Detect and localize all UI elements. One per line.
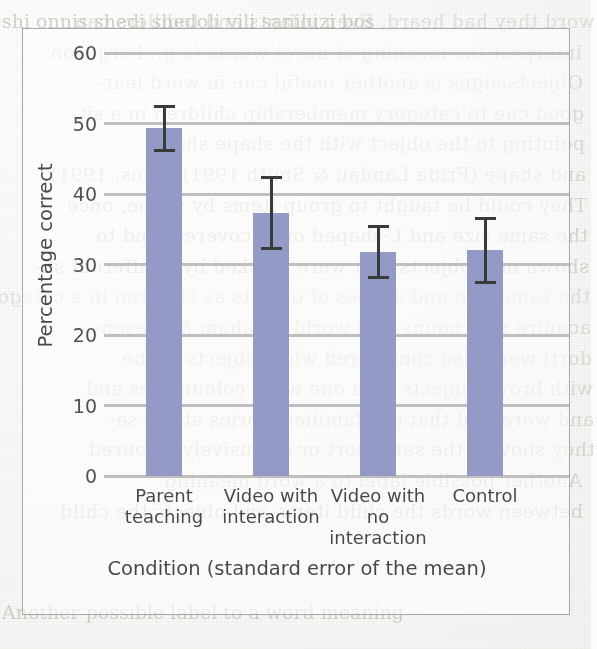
gridline-60 bbox=[104, 52, 570, 55]
x-tick-label-line1: Video with bbox=[224, 485, 318, 506]
error-bar-2 bbox=[253, 176, 289, 251]
y-axis-title: Percentage correct bbox=[34, 126, 57, 386]
x-tick-label-line1: Parent bbox=[135, 485, 193, 506]
error-bar-cap-bottom bbox=[261, 247, 282, 250]
error-bar-cap-bottom bbox=[154, 149, 175, 152]
error-bar-4 bbox=[467, 217, 503, 285]
bar-chart-plot-area: 6050403020100 Percentage correct Parentt… bbox=[23, 29, 571, 616]
y-tick-label-60: 60 bbox=[37, 42, 97, 64]
error-bar-cap-top bbox=[368, 225, 389, 228]
error-bar-stem bbox=[163, 105, 166, 152]
error-bar-cap-top bbox=[475, 217, 496, 220]
figure-frame: 6050403020100 Percentage correct Parentt… bbox=[22, 28, 570, 615]
x-axis-title: Condition (standard error of the mean) bbox=[23, 557, 571, 580]
x-tick-label-line1: Control bbox=[452, 485, 517, 506]
error-bar-stem bbox=[270, 176, 273, 251]
x-tick-label-line2: interaction bbox=[210, 506, 332, 527]
x-tick-label-line2: teaching bbox=[103, 506, 225, 527]
error-bar-cap-top bbox=[261, 176, 282, 179]
error-bar-stem bbox=[484, 217, 487, 285]
error-bar-3 bbox=[360, 225, 396, 279]
error-bar-stem bbox=[377, 225, 380, 279]
error-bar-cap-bottom bbox=[368, 276, 389, 279]
bar-1 bbox=[146, 128, 182, 476]
y-tick-label-10: 10 bbox=[37, 395, 97, 417]
x-tick-label-3: Video withno interaction bbox=[317, 485, 439, 548]
x-tick-label-4: Control bbox=[424, 485, 546, 506]
x-tick-label-1: Parentteaching bbox=[103, 485, 225, 527]
error-bar-cap-bottom bbox=[475, 281, 496, 284]
x-tick-label-line1: Video with bbox=[331, 485, 425, 506]
y-tick-label-0: 0 bbox=[37, 465, 97, 487]
error-bar-cap-top bbox=[154, 105, 175, 108]
bar-2 bbox=[253, 213, 289, 476]
bar-3 bbox=[360, 252, 396, 476]
x-tick-label-line2: no interaction bbox=[317, 506, 439, 548]
x-tick-label-2: Video withinteraction bbox=[210, 485, 332, 527]
bar-4 bbox=[467, 250, 503, 476]
error-bar-1 bbox=[146, 105, 182, 152]
